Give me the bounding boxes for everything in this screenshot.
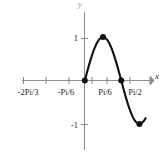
y-axis-label: y	[78, 0, 82, 9]
y-tick-label-neg-one: -1	[63, 121, 78, 130]
x-axis-label: x	[155, 72, 159, 81]
x-tick-label-neg-2pi-3: -2Pi/3	[18, 88, 39, 97]
x-tick-label-pi-2: Pi/2	[128, 88, 142, 97]
y-tick-label-one: 1	[68, 34, 78, 43]
point-mid-zero	[118, 78, 124, 84]
x-tick-label-neg-pi-6: -Pi/6	[58, 88, 75, 97]
point-origin-zero	[82, 78, 88, 84]
point-minimum	[136, 121, 142, 127]
sine-curve-figure: y x -2Pi/3 -Pi/6 Pi/6 Pi/2 1 -1	[0, 0, 167, 156]
x-tick-label-pi-6: Pi/6	[98, 88, 112, 97]
point-maximum	[100, 34, 106, 40]
plot-canvas	[0, 0, 167, 156]
x-axis-arrow-icon	[150, 76, 155, 86]
